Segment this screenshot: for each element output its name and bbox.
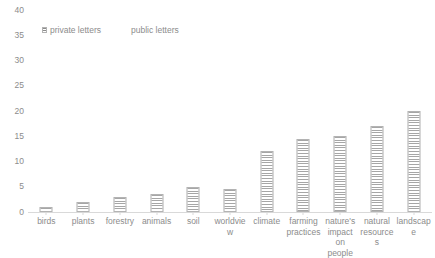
x-axis-tick-mark — [229, 212, 230, 215]
x-axis-tick-mark — [266, 212, 267, 215]
x-axis-tick-mark — [303, 212, 304, 215]
x-axis-tick-mark — [119, 212, 120, 215]
y-axis-tick-label: 5 — [19, 182, 24, 191]
bar[interactable] — [407, 111, 420, 212]
x-axis-tick-label: natural resources — [359, 216, 396, 248]
y-axis-tick-label: 15 — [15, 132, 24, 141]
x-axis-tick-label: birds — [28, 216, 65, 227]
bar-group — [212, 10, 249, 212]
y-axis-tick-label: 10 — [15, 157, 24, 166]
x-axis-tick-mark — [376, 212, 377, 215]
bar[interactable] — [260, 151, 273, 212]
x-axis-tick-mark — [156, 212, 157, 215]
x-axis-tick-mark — [46, 212, 47, 215]
bar[interactable] — [297, 139, 310, 212]
bar-group — [28, 10, 65, 212]
x-axis-tick-label: worldview — [212, 216, 249, 237]
y-axis-tick-label: 0 — [19, 208, 24, 217]
x-axis-tick-mark — [193, 212, 194, 215]
x-axis-tick-label: landscape — [395, 216, 432, 237]
x-axis-tick-label: animals — [138, 216, 175, 227]
y-axis-tick-label: 25 — [15, 81, 24, 90]
x-axis-tick-label: forestry — [101, 216, 138, 227]
x-axis-tick-label: climate — [248, 216, 285, 227]
y-axis-tick-label: 30 — [15, 56, 24, 65]
bar[interactable] — [370, 126, 383, 212]
bar-chart: 4035302520151050 private letterspublic l… — [0, 0, 435, 258]
bar[interactable] — [40, 207, 53, 212]
x-axis: birdsplantsforestryanimalssoilworldviewc… — [28, 216, 432, 258]
y-axis: 4035302520151050 — [0, 0, 28, 258]
bar-group — [322, 10, 359, 212]
x-axis-tick-label: farming practices — [285, 216, 322, 237]
bar[interactable] — [150, 194, 163, 212]
bar[interactable] — [187, 187, 200, 212]
y-axis-tick-label: 40 — [15, 6, 24, 15]
bar[interactable] — [77, 202, 90, 212]
y-axis-tick-label: 20 — [15, 107, 24, 116]
bar-group — [285, 10, 322, 212]
bar-group — [359, 10, 396, 212]
bar[interactable] — [334, 136, 347, 212]
plot-area — [28, 10, 432, 213]
bar-group — [101, 10, 138, 212]
bar[interactable] — [113, 197, 126, 212]
bar-group — [248, 10, 285, 212]
bar-group — [395, 10, 432, 212]
bar-group — [138, 10, 175, 212]
x-axis-tick-mark — [340, 212, 341, 215]
x-axis-tick-label: nature's impact on people — [322, 216, 359, 258]
y-axis-tick-label: 35 — [15, 31, 24, 40]
bar-group — [65, 10, 102, 212]
x-axis-tick-label: soil — [175, 216, 212, 227]
x-axis-tick-mark — [413, 212, 414, 215]
x-axis-tick-label: plants — [65, 216, 102, 227]
bar-group — [175, 10, 212, 212]
bar[interactable] — [223, 189, 236, 212]
x-axis-tick-mark — [83, 212, 84, 215]
